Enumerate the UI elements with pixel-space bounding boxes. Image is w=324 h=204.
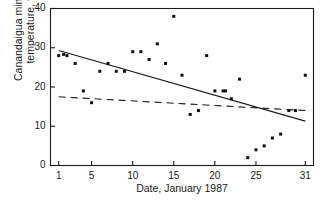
data-point [90,101,93,104]
data-point [107,62,110,65]
data-point [230,97,233,100]
data-point [181,74,184,77]
data-point [82,89,85,92]
data-point [156,42,159,45]
x-axis-label: Date, January 1987 [50,182,314,194]
data-point [238,78,241,81]
x-tick-label: 5 [82,170,102,181]
data-point [271,137,274,140]
data-point [164,62,167,65]
data-point [254,148,257,151]
data-point [294,109,297,112]
x-tick-label: 25 [246,170,266,181]
data-point [115,70,118,73]
tick-marks [51,9,306,166]
x-tick-label: 15 [164,170,184,181]
data-point [57,54,60,57]
data-point [148,58,151,61]
data-point [213,89,216,92]
data-point [197,109,200,112]
y-tick-label: 10 [23,120,46,131]
data-point [246,156,249,159]
data-point [74,62,77,65]
data-point [139,50,142,53]
data-point [263,144,266,147]
y-tick-label: 20 [23,81,46,92]
data-point [279,133,282,136]
y-tick-label: 40 [23,2,46,13]
data-point [304,74,307,77]
scatter-chart-figure: Canandaigua minimum temperature, °F Date… [0,0,324,204]
data-point [224,89,227,92]
x-tick-label: 1 [49,170,69,181]
axis-frame [51,9,314,166]
data-point [98,70,101,73]
data-point [172,15,175,18]
x-tick-label: 31 [295,170,315,181]
dashed-regression-line [59,97,306,111]
data-point [205,54,208,57]
data-point [131,50,134,53]
fit-lines [59,50,306,121]
data-point [287,109,290,112]
data-point [65,54,68,57]
data-point [62,53,65,56]
solid-regression-line [59,50,306,121]
y-tick-label: 30 [23,41,46,52]
x-tick-label: 20 [205,170,225,181]
x-tick-label: 10 [123,170,143,181]
data-point [123,70,126,73]
data-point-group [57,15,307,159]
y-tick-label: 0 [23,159,46,170]
data-point [189,113,192,116]
